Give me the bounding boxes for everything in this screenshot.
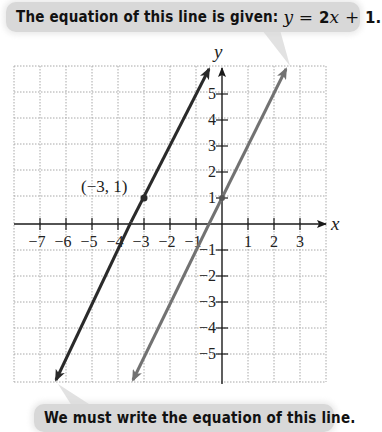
y-tick-label: −1 xyxy=(199,241,216,258)
x-tick-label: 1 xyxy=(244,233,252,250)
eq-const: 1. xyxy=(365,9,382,27)
y-tick-label: 1 xyxy=(208,189,216,206)
x-tick-label: 3 xyxy=(296,233,304,250)
y-tick-label: 2 xyxy=(208,163,216,180)
bottom-callout-text: We must write the equation of this line. xyxy=(44,409,356,427)
x-axis-label: x xyxy=(330,213,340,234)
x-tick-label: −6 xyxy=(54,233,71,250)
y-tick-label: −5 xyxy=(199,345,216,362)
eq-y: y xyxy=(283,7,293,27)
top-callout-text: The equation of this line is given: xyxy=(16,8,278,26)
y-axis-label: y xyxy=(212,41,223,62)
x-tick-label: −2 xyxy=(158,233,175,250)
y-tick-label: 3 xyxy=(208,137,216,154)
x-tick-label: −5 xyxy=(80,233,97,250)
eq-coef: 2 xyxy=(319,9,330,27)
given-equation: y = 2x + 1. xyxy=(283,7,381,27)
eq-x: x xyxy=(330,7,340,27)
y-tick-label: 4 xyxy=(208,111,216,128)
y-tick-label: −4 xyxy=(199,319,216,336)
top-callout-pointer xyxy=(262,30,290,66)
point-label: (−3, 1) xyxy=(81,177,127,196)
x-tick-label: −7 xyxy=(28,233,45,250)
y-tick-label: −2 xyxy=(199,267,216,284)
bottom-callout: We must write the equation of this line. xyxy=(34,404,334,432)
eq-equals: = xyxy=(299,7,313,27)
x-tick-label: 2 xyxy=(270,233,278,250)
y-tick-label: −3 xyxy=(199,293,216,310)
bottom-callout-pointer xyxy=(58,384,92,406)
top-callout: The equation of this line is given: y = … xyxy=(6,2,360,32)
eq-plus: + xyxy=(345,7,359,27)
point-0-1 xyxy=(219,195,225,201)
y-tick-label: 5 xyxy=(208,85,216,102)
x-tick-label: −3 xyxy=(132,233,149,250)
point-neg3-1 xyxy=(141,195,148,202)
